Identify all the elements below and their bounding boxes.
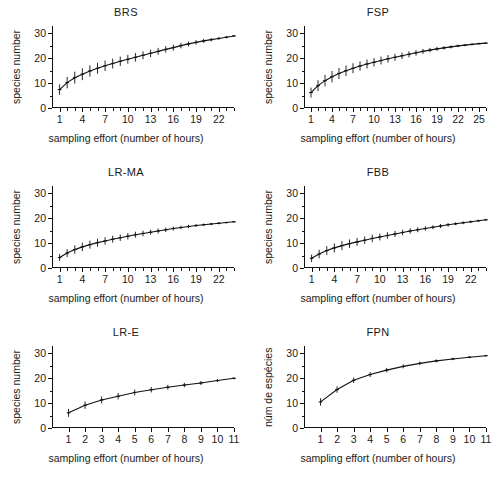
series-line xyxy=(311,43,486,92)
x-axis-tick-label: 10 xyxy=(368,114,380,125)
y-axis-tick xyxy=(300,428,304,429)
data-series xyxy=(52,186,234,268)
x-axis-tick xyxy=(82,268,83,272)
x-axis-tick xyxy=(196,268,197,272)
x-axis-minor-tick xyxy=(318,108,319,111)
x-axis-minor-tick xyxy=(456,268,457,271)
y-axis-tick-label: 10 xyxy=(34,238,46,249)
x-axis-minor-tick xyxy=(486,108,487,111)
x-axis-tick xyxy=(118,428,119,432)
series-line xyxy=(60,222,234,258)
x-axis-tick-label: 13 xyxy=(389,114,401,125)
x-axis-minor-tick xyxy=(430,108,431,111)
x-axis-tick xyxy=(425,268,426,272)
x-axis-tick xyxy=(458,108,459,112)
x-axis-minor-tick xyxy=(402,108,403,111)
data-series xyxy=(304,186,486,268)
y-axis-tick-label: 20 xyxy=(286,373,298,384)
x-axis-tick-label: 19 xyxy=(442,274,454,285)
x-axis-tick xyxy=(102,428,103,432)
x-axis-minor-tick xyxy=(143,268,144,271)
x-axis-tick-label: 4 xyxy=(115,434,121,445)
x-axis-minor-tick xyxy=(350,268,351,271)
y-axis-tick-label: 20 xyxy=(34,53,46,64)
x-axis-tick xyxy=(173,268,174,272)
x-axis-minor-tick xyxy=(181,108,182,111)
x-axis-tick-label: 25 xyxy=(473,114,485,125)
x-axis-title: sampling effort (number of hours) xyxy=(252,132,504,144)
x-axis-tick-label: 10 xyxy=(122,114,134,125)
x-axis-tick xyxy=(60,268,61,272)
y-axis-tick-label: 20 xyxy=(34,373,46,384)
y-axis-tick-label: 0 xyxy=(40,103,46,114)
x-axis-tick xyxy=(469,428,470,432)
x-axis-tick xyxy=(219,268,220,272)
x-axis-minor-tick xyxy=(325,108,326,111)
x-axis-minor-tick xyxy=(327,268,328,271)
x-axis-tick xyxy=(184,428,185,432)
x-axis-minor-tick xyxy=(486,268,487,271)
figure-panel-grid: BRS species number 01020301471013161922 … xyxy=(0,0,504,479)
x-axis-tick xyxy=(105,268,106,272)
y-axis-tick-label: 10 xyxy=(34,398,46,409)
chart-panel-lr-ma: LR-MA species number 0102030147101316192… xyxy=(0,160,252,320)
x-axis-minor-tick xyxy=(339,108,340,111)
data-series xyxy=(52,26,234,108)
x-axis-tick-label: 8 xyxy=(181,434,187,445)
x-axis-tick-label: 4 xyxy=(79,274,85,285)
x-axis-minor-tick xyxy=(372,268,373,271)
x-axis-minor-tick xyxy=(90,108,91,111)
series-line xyxy=(69,378,234,413)
plot-area: 0102030147101316192225 xyxy=(304,26,486,108)
y-axis-title: species number xyxy=(262,186,274,268)
x-axis-tick-label: 2 xyxy=(334,434,340,445)
x-axis-tick xyxy=(403,268,404,272)
x-axis-tick-label: 13 xyxy=(397,274,409,285)
x-axis-tick-label: 1 xyxy=(309,274,315,285)
y-axis-title: species number xyxy=(10,26,22,108)
y-axis-tick-label: 0 xyxy=(292,103,298,114)
x-axis-minor-tick xyxy=(90,268,91,271)
x-axis-tick xyxy=(82,108,83,112)
y-axis-tick-label: 30 xyxy=(34,188,46,199)
x-axis-minor-tick xyxy=(423,108,424,111)
x-axis-minor-tick xyxy=(410,268,411,271)
y-axis-tick-label: 30 xyxy=(286,28,298,39)
y-axis-tick-label: 10 xyxy=(286,398,298,409)
x-axis-title: sampling effort (number of hours) xyxy=(0,132,252,144)
chart-panel-lr-e: LR-E species number 01020301234567891011… xyxy=(0,320,252,479)
x-axis-minor-tick xyxy=(211,268,212,271)
data-points xyxy=(58,36,236,90)
x-axis-tick xyxy=(395,108,396,112)
x-axis-tick-label: 7 xyxy=(350,114,356,125)
y-axis-tick-label: 0 xyxy=(292,423,298,434)
y-axis-title: species number xyxy=(262,26,274,108)
x-axis-tick xyxy=(128,268,129,272)
x-axis-tick xyxy=(337,428,338,432)
y-axis-tick-label: 0 xyxy=(292,263,298,274)
y-axis-tick-label: 0 xyxy=(40,423,46,434)
x-axis-minor-tick xyxy=(98,268,99,271)
x-axis-tick-label: 3 xyxy=(351,434,357,445)
x-axis-tick xyxy=(479,108,480,112)
x-axis-tick-label: 5 xyxy=(384,434,390,445)
x-axis-minor-tick xyxy=(319,268,320,271)
x-axis-tick-label: 16 xyxy=(410,114,422,125)
x-axis-tick xyxy=(370,428,371,432)
x-axis-minor-tick xyxy=(463,268,464,271)
y-axis-tick-label: 10 xyxy=(286,78,298,89)
x-axis-tick-label: 9 xyxy=(198,434,204,445)
x-axis-tick xyxy=(380,268,381,272)
x-axis-tick xyxy=(374,108,375,112)
x-axis-tick-label: 16 xyxy=(167,114,179,125)
x-axis-tick xyxy=(60,108,61,112)
x-axis-tick-label: 11 xyxy=(229,434,240,445)
panel-title: FBB xyxy=(252,166,504,178)
x-axis-tick-label: 22 xyxy=(452,114,464,125)
x-axis-tick-label: 8 xyxy=(433,434,439,445)
x-axis-tick xyxy=(416,108,417,112)
x-axis-minor-tick xyxy=(158,268,159,271)
y-axis-tick xyxy=(48,108,52,109)
x-axis-tick xyxy=(353,108,354,112)
x-axis-tick xyxy=(471,268,472,272)
